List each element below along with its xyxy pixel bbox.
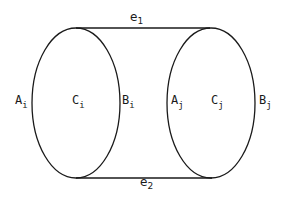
label-a-i: Ai — [15, 93, 28, 110]
edge-e1-label: e1 — [130, 10, 143, 26]
cylinder-diagram: e1 e2 Ai Ci Bi Aj Cj Bj — [0, 0, 287, 201]
label-a-j: Aj — [171, 93, 184, 110]
label-c-j: Cj — [211, 93, 224, 110]
label-c-i: Ci — [72, 93, 85, 110]
label-b-j: Bj — [259, 93, 272, 110]
label-b-i: Bi — [122, 93, 135, 110]
